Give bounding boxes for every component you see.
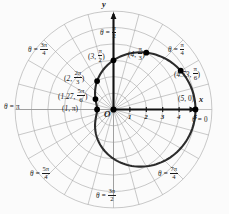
point-label-point-2-2pi-3: (2, 2π3) [64,70,84,85]
point-dot-5 [93,96,99,102]
angle-label-theta-5pi-4: θ = 5π4 [30,166,50,181]
angle-label-theta-7pi-4: θ = 7π4 [158,166,178,181]
point-label-point-127-5pi-6: (1.27, 5π6) [58,88,87,103]
angle-label-theta-pi: θ = π [4,104,20,111]
angle-label-theta-pi-2: θ = π2 [100,25,116,40]
point-dot-6 [94,107,100,113]
y-axis-label: y [102,1,106,9]
point-label-point-3-pi-2: (3, π2) [88,48,105,63]
angle-label-theta-pi-4: θ = π4 [168,42,184,57]
point-label-point-473-pi-6: (4.73, π6) [174,66,200,81]
x-tick-label-5: 5 [194,114,198,121]
point-dot-4 [94,78,100,84]
x-tick-label-2: 2 [144,114,148,121]
point-label-point-4-pi-3: (4, π3) [128,46,145,61]
point-label-point-1-pi: (1, π) [62,105,78,112]
x-tick-label-3: 3 [161,114,165,121]
x-tick-label-4: 4 [177,114,181,121]
origin-label: O [104,110,111,119]
x-axis-label: x [199,96,203,104]
angle-label-theta-3pi-2: θ = 3π2 [96,188,116,203]
origin-dot [110,106,116,112]
x-tick-label-1: 1 [128,114,132,121]
point-label-point-5-0: (5, 0) [178,95,194,102]
point-dot-0 [193,107,199,113]
angle-label-theta-3pi-4: θ = 3π4 [28,42,48,57]
point-dot-3 [111,57,117,63]
